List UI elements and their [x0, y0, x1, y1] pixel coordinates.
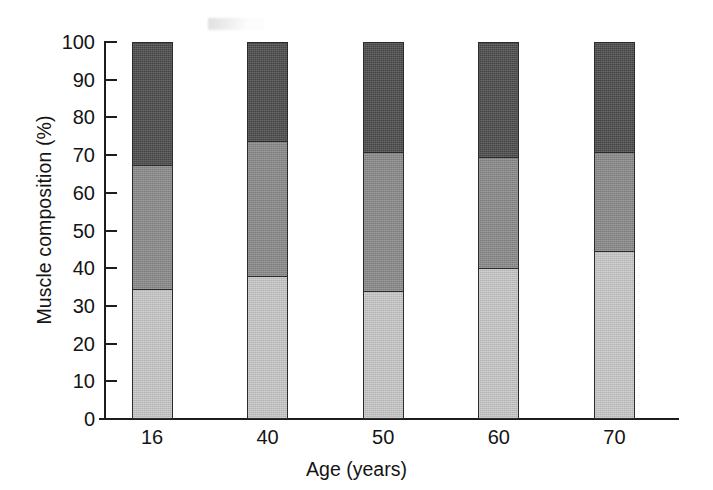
bar-segment-70-s2[interactable]	[595, 152, 634, 251]
x-tick-label-60: 60	[459, 426, 539, 449]
bar-40[interactable]	[247, 42, 288, 419]
bar-segment-60-s1[interactable]	[479, 268, 518, 418]
bar-segment-16-s2[interactable]	[133, 165, 172, 289]
y-tick-label: 80	[73, 107, 95, 127]
x-tick-label-70: 70	[574, 426, 654, 449]
bar-segment-50-s1[interactable]	[364, 291, 403, 419]
bar-segment-60-s3[interactable]	[479, 43, 518, 157]
bar-16[interactable]	[132, 42, 173, 419]
bar-segment-70-s3[interactable]	[595, 43, 634, 152]
chart-figure: Muscle composition (%) 01020304050607080…	[0, 0, 713, 490]
y-tick-label: 90	[73, 70, 95, 90]
y-tick-label: 60	[73, 183, 95, 203]
y-tick-label: 30	[73, 296, 95, 316]
bar-segment-40-s1[interactable]	[248, 276, 287, 419]
bar-segment-16-s1[interactable]	[133, 289, 172, 418]
bar-segment-40-s2[interactable]	[248, 141, 287, 276]
bar-segment-60-s2[interactable]	[479, 157, 518, 268]
y-tick-label: 100	[62, 32, 95, 52]
plot-area: 0102030405060708090100	[104, 42, 674, 419]
y-tick-label: 70	[73, 145, 95, 165]
y-tick-label: 40	[73, 258, 95, 278]
bar-segment-50-s2[interactable]	[364, 152, 403, 291]
bar-50[interactable]	[363, 42, 404, 419]
bar-segment-50-s3[interactable]	[364, 43, 403, 152]
y-tick-label: 20	[73, 334, 95, 354]
bar-segment-70-s1[interactable]	[595, 251, 634, 418]
bar-segment-40-s3[interactable]	[248, 43, 287, 141]
y-tick-label: 50	[73, 221, 95, 241]
bar-60[interactable]	[478, 42, 519, 419]
x-tick-label-40: 40	[228, 426, 308, 449]
x-tick-label-16: 16	[112, 426, 192, 449]
bar-group	[104, 42, 674, 419]
y-axis-label: Muscle composition (%)	[22, 10, 66, 430]
x-tick-label-50: 50	[343, 426, 423, 449]
x-axis-label: Age (years)	[0, 458, 713, 481]
scan-artifact	[208, 18, 264, 30]
bar-segment-16-s3[interactable]	[133, 43, 172, 165]
y-tick-label: 10	[73, 371, 95, 391]
bar-70[interactable]	[594, 42, 635, 419]
y-tick-label: 0	[84, 409, 95, 429]
